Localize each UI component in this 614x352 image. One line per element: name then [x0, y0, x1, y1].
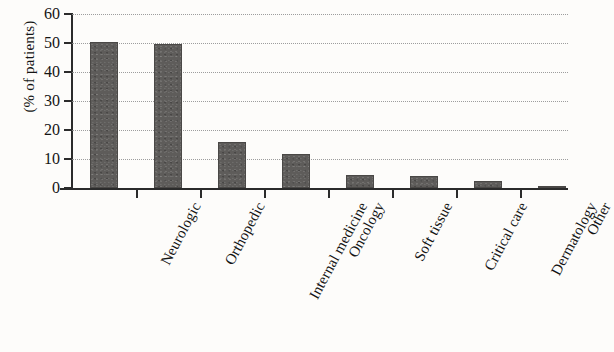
x-axis-label-neurologic: Neurologic — [158, 200, 203, 268]
gridline-10 — [72, 159, 568, 161]
x-axis-label-critical-care: Critical care — [482, 200, 530, 273]
bar-soft-tissue — [346, 175, 374, 188]
bar-internal-medicine — [218, 142, 246, 188]
bar-other — [538, 186, 566, 188]
x-tick-mark-1 — [136, 189, 138, 198]
gridline-50 — [72, 43, 568, 45]
bar-orthopedic — [154, 44, 182, 188]
gridline-60 — [72, 14, 568, 16]
y-tick-label-50: 50 — [20, 35, 60, 51]
y-tick-label-10: 10 — [20, 151, 60, 167]
y-tick-label-30: 30 — [20, 93, 60, 109]
y-tick-label-20: 20 — [20, 122, 60, 138]
y-tick-label-60: 60 — [20, 6, 60, 22]
plot-area — [72, 14, 568, 188]
x-tick-mark-3 — [264, 189, 266, 198]
bar-critical-care — [410, 176, 438, 188]
x-axis-label-orthopedic: Orthopedic — [222, 200, 267, 268]
x-tick-mark-4 — [328, 189, 330, 198]
y-tick-label-40: 40 — [20, 64, 60, 80]
gridline-30 — [72, 101, 568, 103]
x-tick-mark-2 — [200, 189, 202, 198]
bar-dermatology — [474, 181, 502, 188]
x-tick-mark-5 — [392, 189, 394, 198]
bar-oncology — [282, 154, 310, 188]
gridline-40 — [72, 72, 568, 74]
gridline-20 — [72, 130, 568, 132]
y-tick-label-0: 0 — [20, 180, 60, 196]
x-tick-mark-6 — [456, 189, 458, 198]
x-tick-mark-7 — [520, 189, 522, 198]
x-axis-label-soft-tissue: Soft tissue — [412, 200, 455, 264]
bar-neurologic — [90, 42, 118, 188]
